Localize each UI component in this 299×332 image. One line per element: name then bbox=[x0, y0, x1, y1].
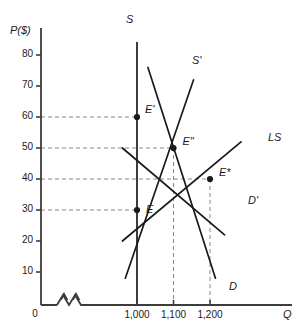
y-tick-label-40: 40 bbox=[22, 172, 33, 183]
curve-label-shifted-supply: S' bbox=[192, 54, 201, 66]
y-tick-label-80: 80 bbox=[22, 48, 33, 59]
x-axis-label: Q bbox=[283, 308, 292, 320]
curve-label-long-run-supply: LS bbox=[268, 131, 281, 143]
axes-layer bbox=[36, 28, 292, 310]
y-tick-label-60: 60 bbox=[22, 110, 33, 121]
curve-label-short-run-supply: S bbox=[126, 13, 133, 25]
y-tick-label-70: 70 bbox=[22, 79, 33, 90]
curve-original-demand bbox=[148, 67, 216, 278]
equilibrium-label-E": E" bbox=[183, 135, 194, 147]
equilibrium-point-E' bbox=[134, 114, 140, 120]
x-tick-label-1100: 1,100 bbox=[161, 309, 186, 320]
x-tick-label-1000: 1,000 bbox=[124, 309, 149, 320]
y-tick-label-30: 30 bbox=[22, 203, 33, 214]
chart-figure: 10203040506070801,0001,1001,200EE'E"E*SS… bbox=[0, 0, 299, 332]
supply-demand-plot bbox=[0, 0, 299, 332]
equilibrium-point-E bbox=[134, 207, 140, 213]
curve-label-original-demand: D bbox=[229, 280, 237, 292]
curve-long-run-supply bbox=[122, 142, 241, 241]
equilibrium-label-E': E' bbox=[145, 103, 154, 115]
equilibrium-point-E* bbox=[207, 176, 213, 182]
equilibrium-label-E: E bbox=[146, 203, 153, 215]
x-tick-label-1200: 1,200 bbox=[197, 309, 222, 320]
y-axis-label: P($) bbox=[10, 24, 31, 36]
origin-label: 0 bbox=[32, 308, 38, 319]
y-tick-label-50: 50 bbox=[22, 141, 33, 152]
y-tick-label-20: 20 bbox=[22, 234, 33, 245]
equilibrium-point-E" bbox=[170, 145, 176, 151]
equilibrium-label-E*: E* bbox=[219, 166, 231, 178]
curve-label-shifted-demand: D' bbox=[248, 194, 258, 206]
y-tick-label-10: 10 bbox=[22, 265, 33, 276]
